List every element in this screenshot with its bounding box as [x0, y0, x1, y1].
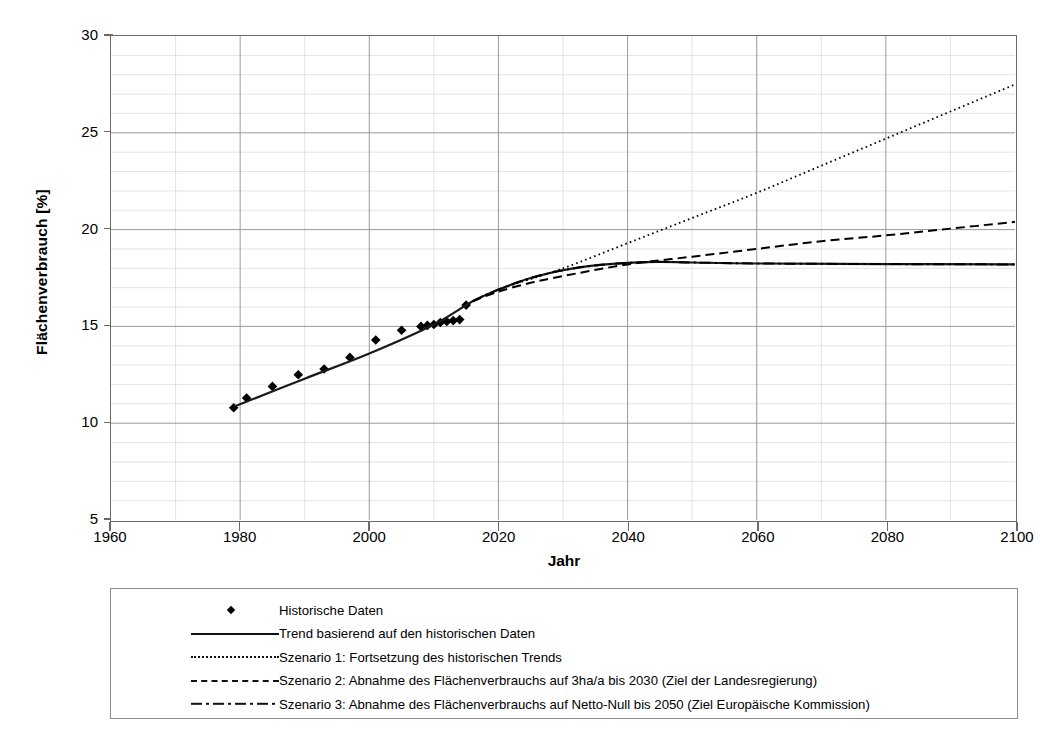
legend-item[interactable]: Szenario 1: Fortsetzung des historischen… [111, 645, 1017, 669]
legend-label: Szenario 1: Fortsetzung des historischen… [279, 650, 562, 665]
legend-label: Trend basierend auf den historischen Dat… [279, 626, 535, 641]
y-tick-label: 15 [52, 317, 98, 332]
legend-label: Szenario 3: Abnahme des Flächenverbrauch… [279, 697, 870, 712]
y-tick-label: 30 [52, 27, 98, 42]
x-tick-mark [368, 522, 369, 531]
x-axis-title: Jahr [110, 552, 1018, 570]
series-5 [473, 262, 1015, 301]
y-axis-tick-labels: 51015202530 [52, 0, 98, 560]
data-point-marker [455, 315, 465, 325]
chart-legend: Historische DatenTrend basierend auf den… [110, 588, 1018, 719]
legend-label: Historische Daten [279, 603, 383, 618]
y-tick-label: 10 [52, 414, 98, 429]
x-tick-mark [498, 522, 499, 531]
legend-key-dashed-icon [183, 671, 279, 691]
y-tick-label: 25 [52, 124, 98, 139]
x-tick-mark [887, 522, 888, 531]
x-tick-mark [757, 522, 758, 531]
series-line [234, 262, 1015, 407]
x-tick-mark [109, 522, 110, 531]
legend-line-sample [191, 703, 279, 705]
legend-item[interactable]: Szenario 2: Abnahme des Flächenverbrauch… [111, 669, 1017, 693]
legend-key-diamond-icon [183, 600, 279, 620]
chart-figure: Flächenverbrauch [%] 51015202530 1960198… [0, 0, 1056, 747]
series-4 [473, 222, 1015, 301]
x-tick-mark [628, 522, 629, 531]
diamond-marker-icon [227, 606, 235, 614]
data-point-marker [371, 335, 381, 345]
y-axis-title: Flächenverbrauch [%] [33, 62, 51, 482]
plot-canvas [111, 36, 1015, 520]
legend-line-sample [191, 656, 279, 658]
legend-label: Szenario 2: Abnahme des Flächenverbrauch… [279, 673, 817, 688]
plot-area [110, 35, 1017, 522]
legend-line-sample [191, 633, 279, 635]
series-line [473, 222, 1015, 301]
legend-line-sample [191, 680, 279, 682]
series-1 [229, 300, 471, 412]
legend-item[interactable]: Historische Daten [111, 598, 1017, 622]
x-tick-mark [239, 522, 240, 531]
x-tick-mark [1016, 522, 1017, 531]
y-tick-label: 5 [52, 511, 98, 526]
legend-item[interactable]: Trend basierend auf den historischen Dat… [111, 622, 1017, 646]
legend-item[interactable]: Szenario 3: Abnahme des Flächenverbrauch… [111, 692, 1017, 716]
data-point-marker [397, 325, 407, 335]
y-tick-label: 20 [52, 221, 98, 236]
legend-key-solid-icon [183, 624, 279, 644]
series-line [473, 262, 1015, 301]
legend-key-dotted-icon [183, 647, 279, 667]
series-2 [234, 262, 1015, 407]
data-point-marker [293, 370, 303, 380]
gridlines-minor [111, 36, 1015, 520]
legend-key-dashdot-icon [183, 694, 279, 714]
